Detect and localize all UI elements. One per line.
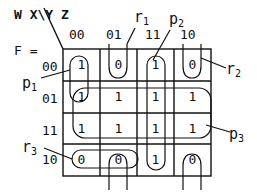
group-label-p2: p2 [169, 12, 184, 29]
group-label-p1: p1 [22, 76, 37, 93]
col-header-11: 11 [145, 28, 161, 41]
cell-10-01: 0 [100, 144, 137, 175]
variables-label: W X\Y Z [14, 8, 69, 21]
cell-01-00: 1 [63, 81, 100, 112]
cell-00-10: 0 [174, 49, 211, 80]
col-header-00: 00 [69, 28, 85, 41]
cell-10-11: 1 [137, 144, 174, 175]
cell-01-11: 1 [137, 81, 174, 112]
cell-11-01: 1 [100, 113, 137, 144]
row-header-11: 11 [42, 124, 58, 137]
row-header-10: 10 [42, 153, 58, 166]
cell-01-01: 1 [100, 81, 137, 112]
group-label-r3: r3 [22, 140, 37, 157]
cell-11-00: 1 [63, 113, 100, 144]
cell-00-11: 1 [137, 49, 174, 80]
cell-11-10: 1 [174, 113, 211, 144]
cell-00-00: 1 [63, 49, 100, 80]
cell-00-01: 0 [100, 49, 137, 80]
col-header-10: 10 [180, 28, 196, 41]
group-label-r1: r1 [134, 10, 149, 27]
row-header-00: 00 [42, 60, 58, 73]
col-header-01: 01 [106, 28, 122, 41]
row-header-01: 01 [42, 92, 58, 105]
cell-10-00: 0 [63, 144, 100, 175]
cell-11-11: 1 [137, 113, 174, 144]
group-label-r2: r2 [226, 62, 241, 79]
cell-01-10: 1 [174, 81, 211, 112]
group-label-p3: p3 [229, 127, 244, 144]
function-label: F = [14, 44, 37, 57]
cell-10-10: 0 [174, 144, 211, 175]
